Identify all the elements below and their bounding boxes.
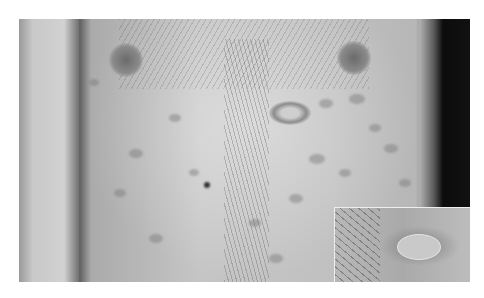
- lesion: [289, 194, 303, 203]
- right-nipple: [337, 41, 371, 75]
- lesion: [399, 179, 411, 187]
- herald-patch: [269, 101, 311, 125]
- lesion: [249, 219, 261, 227]
- lesion: [339, 169, 351, 177]
- lesion: [319, 99, 333, 108]
- lesion: [89, 79, 99, 86]
- inset-lesion-center: [397, 234, 441, 260]
- lesion: [149, 234, 163, 243]
- lesion: [129, 149, 143, 158]
- mole: [204, 182, 210, 188]
- lesion: [269, 254, 283, 263]
- left-nipple: [109, 43, 143, 77]
- magnified-inset: [334, 207, 470, 282]
- inset-hair: [335, 208, 380, 282]
- lesion: [189, 169, 199, 176]
- lesion: [169, 114, 181, 122]
- lesion: [309, 154, 325, 164]
- lesion: [369, 124, 381, 132]
- lesion: [349, 94, 365, 104]
- lesion: [384, 144, 398, 153]
- midline-hair: [224, 39, 269, 282]
- lesion: [114, 189, 126, 197]
- clinical-photo: [19, 19, 470, 282]
